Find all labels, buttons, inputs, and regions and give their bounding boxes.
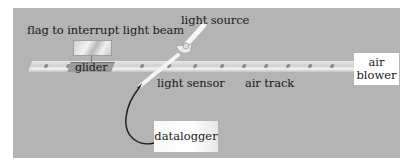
air-track-label: air track xyxy=(245,76,294,90)
lamp-bulb xyxy=(183,43,189,49)
datalogger-label: datalogger xyxy=(154,130,217,143)
light-source-tube xyxy=(186,25,204,45)
flag-label: flag to interrupt light beam xyxy=(27,23,184,37)
light-sensor-label: light sensor xyxy=(157,76,225,90)
glider-label: glider xyxy=(75,61,107,74)
sensor-cable xyxy=(126,88,154,144)
air-blower-label-line2: blower xyxy=(356,69,396,82)
air-blower-box: air blower xyxy=(354,53,399,85)
light-source-label: light source xyxy=(181,13,249,27)
datalogger-box: datalogger xyxy=(154,121,218,152)
